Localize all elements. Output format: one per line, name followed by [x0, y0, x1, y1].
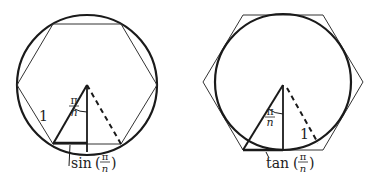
- inscribed-figure: [17, 15, 157, 166]
- left-radius-dashed: [87, 85, 121, 144]
- left-segment-den: n: [102, 163, 108, 174]
- left-label-pointer: [69, 145, 70, 166]
- right-angle-den: n: [266, 116, 273, 129]
- circumscribed-figure: [203, 14, 363, 158]
- left-segment-paren-open: (: [95, 155, 100, 171]
- right-line-to-vertex: [243, 85, 283, 150]
- left-segment-func: sin: [71, 155, 92, 171]
- left-side-label: 1: [39, 108, 48, 124]
- right-segment-paren-open: (: [293, 155, 298, 171]
- left-segment-num: π: [102, 151, 109, 162]
- diagram-canvas: 1 π n sin ( π n ) π n 1 tan ( π n ): [0, 0, 381, 179]
- right-segment-func: tan: [266, 155, 289, 171]
- left-angle-den: n: [70, 106, 77, 119]
- right-segment-paren-close: ): [309, 155, 314, 171]
- left-segment-paren-close: ): [111, 155, 116, 171]
- right-radius-label: 1: [300, 126, 309, 142]
- right-segment-num: π: [300, 151, 307, 162]
- right-segment-den: n: [300, 163, 306, 174]
